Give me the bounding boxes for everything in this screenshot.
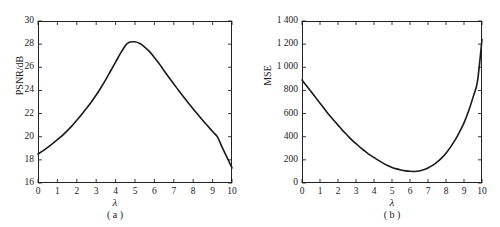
- plot-area-a: 1618202224262830 012345678910: [38, 21, 232, 183]
- chart-canvas-b: [302, 21, 482, 183]
- chart-canvas-a: [38, 21, 232, 183]
- y-tick-label: 800: [268, 86, 298, 96]
- y-tick-label: 400: [268, 132, 298, 142]
- y-tick-label: 1 000: [268, 63, 298, 73]
- y-tick-label: 18: [16, 155, 34, 165]
- y-tick-label: 1 200: [268, 39, 298, 49]
- x-axis-title-b: λ: [362, 196, 422, 208]
- x-tick-label: 10: [471, 187, 493, 197]
- y-tick-label: 22: [16, 109, 34, 119]
- plot-area-b: 02004006008001 0001 2001 400 01234567891…: [302, 21, 482, 183]
- panel-a: 1618202224262830 012345678910 PSNR/dB λ …: [0, 0, 250, 227]
- data-line-psnr: [38, 42, 232, 168]
- panel-caption-b: ( b ): [362, 209, 422, 220]
- tick-marks-a: [38, 21, 232, 183]
- panel-b: 02004006008001 0001 2001 400 01234567891…: [250, 0, 500, 227]
- x-axis-title-a: λ: [85, 196, 145, 208]
- x-tick-label: 10: [221, 187, 243, 197]
- y-tick-label: 200: [268, 155, 298, 165]
- y-tick-label: 20: [16, 132, 34, 142]
- tick-marks-b: [302, 21, 482, 183]
- y-tick-label: 600: [268, 109, 298, 119]
- y-axis-title-b: MSE: [262, 50, 273, 102]
- figure-container: 1618202224262830 012345678910 PSNR/dB λ …: [0, 0, 500, 227]
- panel-caption-a: ( a ): [85, 209, 145, 220]
- y-tick-label: 30: [16, 16, 34, 26]
- data-line-mse: [302, 40, 482, 172]
- y-tick-label: 1 400: [268, 16, 298, 26]
- y-axis-title-a: PSNR/dB: [14, 45, 25, 107]
